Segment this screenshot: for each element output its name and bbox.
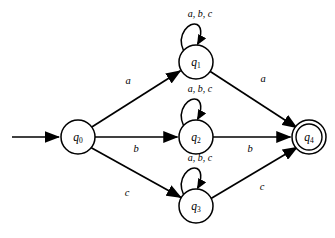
state-q1[interactable]: q1 [179,45,213,79]
edge-label-q0-q2: b [133,143,138,154]
edge-label-q2-q4: b [247,143,252,154]
edge-label-q1-q4: a [260,73,265,84]
edge-label-q3-q4: c [260,181,265,192]
self-loop-label-q2: a, b, c [188,83,213,94]
state-q4-accepting[interactable]: q4 [292,120,326,154]
edge-label-q0-q1: a [125,75,130,86]
state-q2[interactable]: q2 [179,120,213,154]
state-q0[interactable]: q0 [61,120,95,154]
state-q3[interactable]: q3 [179,189,213,223]
edge-q0-q1 [92,71,181,127]
edge-label-q0-q3: c [125,187,130,198]
edge-q0-q3 [91,148,181,198]
edge-q3-q4 [211,147,297,198]
automaton-diagram: q0 q1 q2 q3 q4 a b c a b c a, b, c a, b,… [0,0,335,238]
self-loop-label-q3: a, b, c [188,152,213,163]
self-loop-label-q1: a, b, c [188,8,213,19]
fsm-canvas: q0 q1 q2 q3 q4 a b c a b c a, b, c a, b,… [0,0,335,238]
edge-q1-q4 [210,72,296,128]
